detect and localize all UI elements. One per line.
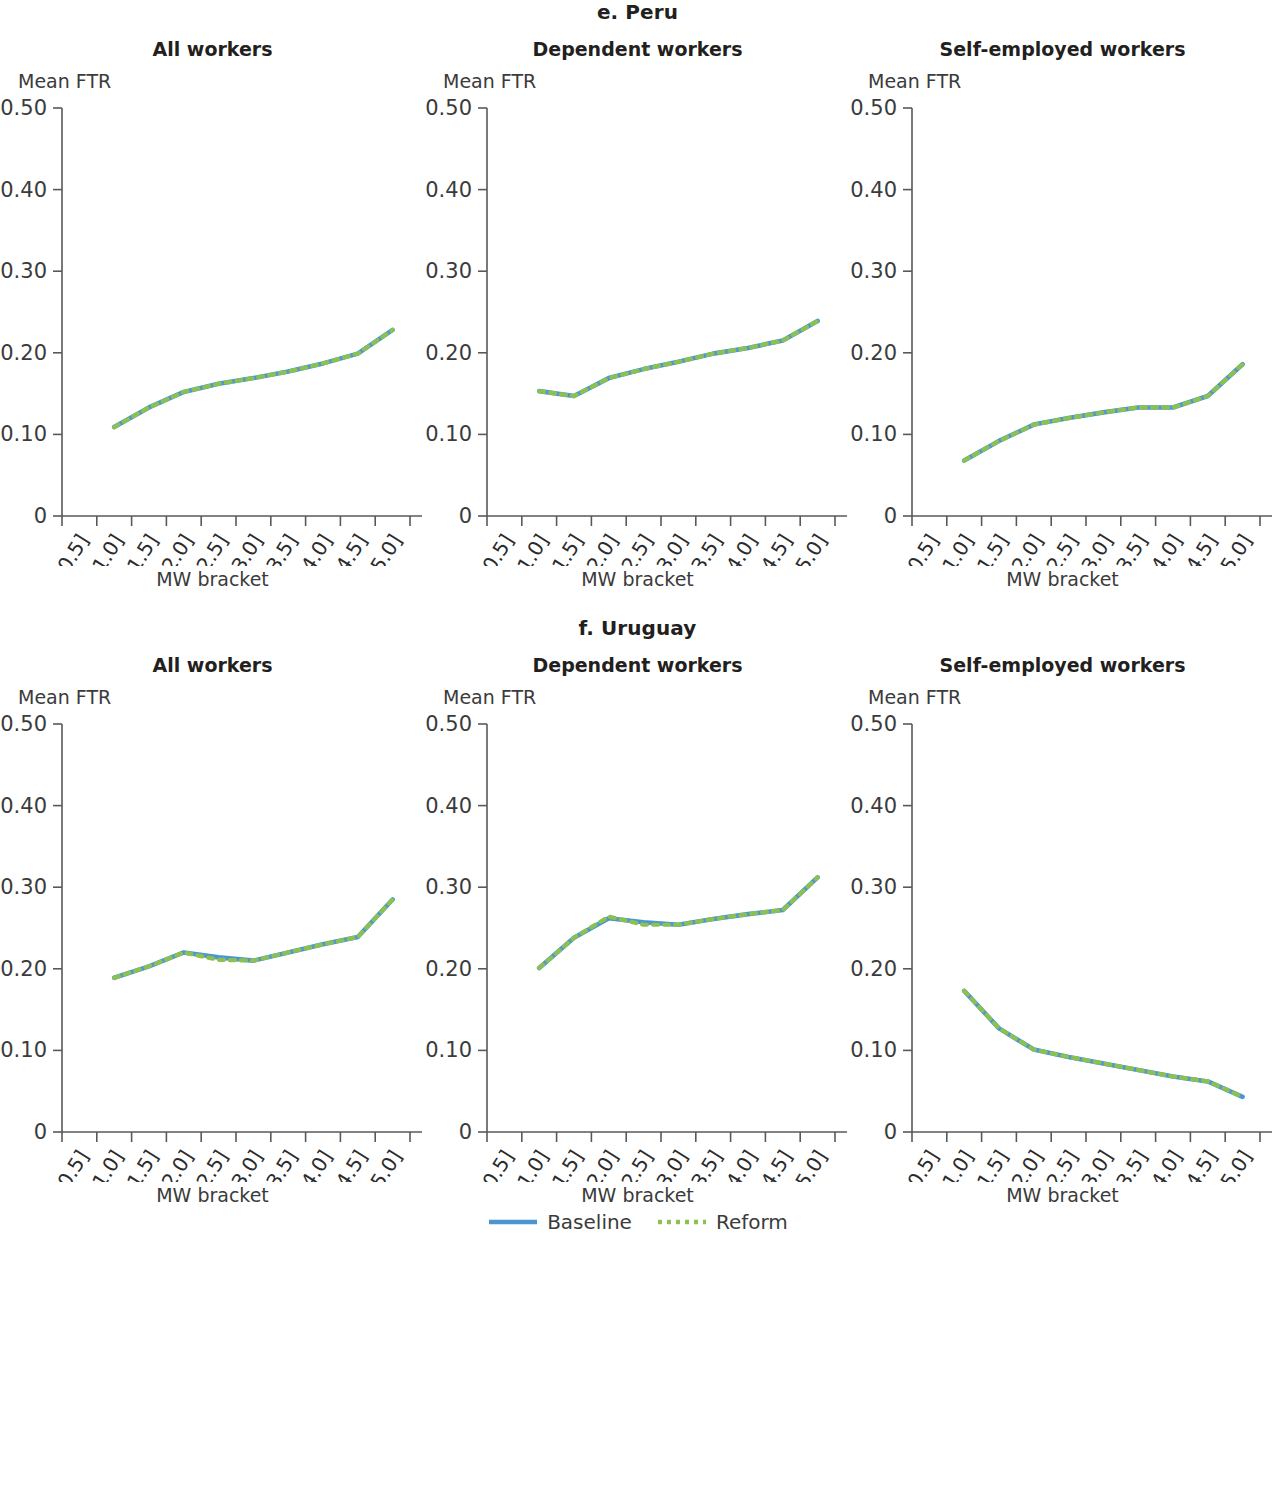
y-axis-tick-label: 0.40 [425, 178, 472, 202]
y-axis-tick-label: 0.30 [850, 875, 897, 899]
y-axis-tick-label: 0.10 [850, 422, 897, 446]
legend-label-baseline: Baseline [547, 1210, 632, 1234]
panel-title: Dependent workers [425, 38, 850, 60]
plot-area: 00.100.200.300.400.50[0, 0.5][0.5, 1.0][… [425, 96, 850, 566]
y-axis-tick-label: 0.20 [425, 341, 472, 365]
baseline-line-swatch [487, 1215, 539, 1229]
panel-uruguay-all-workers: All workers Mean FTR 00.100.200.300.400.… [0, 640, 425, 1206]
line-chart: 00.100.200.300.400.50[0, 0.5][0.5, 1.0][… [0, 96, 425, 566]
line-chart: 00.100.200.300.400.50[0, 0.5][0.5, 1.0][… [850, 712, 1275, 1182]
section-peru: e. Peru All workers Mean FTR 00.100.200.… [0, 0, 1275, 590]
reform-line [539, 321, 817, 396]
y-axis-tick-label: 0.10 [850, 1038, 897, 1062]
y-axis-tick-label: 0.40 [425, 794, 472, 818]
panel-title: All workers [0, 654, 425, 676]
panel-row-uruguay: All workers Mean FTR 00.100.200.300.400.… [0, 640, 1275, 1206]
y-axis-tick-label: 0 [884, 1120, 897, 1144]
x-axis-tick-label: [0, 0.5] [885, 530, 944, 566]
y-axis-label: Mean FTR [443, 686, 850, 708]
y-axis-tick-label: 0.50 [850, 96, 897, 120]
reform-line-swatch [656, 1215, 708, 1229]
y-axis-tick-label: 0.10 [0, 422, 47, 446]
y-axis-label: Mean FTR [868, 70, 1275, 92]
x-axis-tick-label: [0, 0.5] [885, 1146, 944, 1182]
plot-area: 00.100.200.300.400.50[0, 0.5][0.5, 1.0][… [0, 96, 425, 566]
panel-peru-all-workers: All workers Mean FTR 00.100.200.300.400.… [0, 24, 425, 590]
line-chart: 00.100.200.300.400.50[0, 0.5][0.5, 1.0][… [850, 96, 1275, 566]
y-axis-tick-label: 0 [459, 504, 472, 528]
panel-peru-self-employed-workers: Self-employed workers Mean FTR 00.100.20… [850, 24, 1275, 590]
y-axis-label: Mean FTR [443, 70, 850, 92]
y-axis-tick-label: 0.30 [425, 259, 472, 283]
y-axis-tick-label: 0.40 [850, 178, 897, 202]
y-axis-tick-label: 0.40 [0, 178, 47, 202]
baseline-line [539, 321, 817, 396]
x-axis-tick-label: [0, 0.5] [35, 1146, 94, 1182]
y-axis-tick-label: 0.20 [0, 957, 47, 981]
reform-line [964, 364, 1242, 460]
panel-title: Self-employed workers [850, 654, 1275, 676]
y-axis-tick-label: 0.30 [0, 259, 47, 283]
panel-title: Dependent workers [425, 654, 850, 676]
y-axis-tick-label: 0.50 [425, 96, 472, 120]
y-axis-tick-label: 0.10 [0, 1038, 47, 1062]
section-uruguay: f. Uruguay All workers Mean FTR 00.100.2… [0, 616, 1275, 1206]
x-axis-label: MW bracket [0, 568, 425, 590]
x-axis-label: MW bracket [425, 568, 850, 590]
y-axis-tick-label: 0.50 [425, 712, 472, 736]
y-axis-tick-label: 0.30 [425, 875, 472, 899]
y-axis-tick-label: 0.20 [850, 957, 897, 981]
y-axis-tick-label: 0.30 [850, 259, 897, 283]
y-axis-tick-label: 0.40 [850, 794, 897, 818]
plot-area: 00.100.200.300.400.50[0, 0.5][0.5, 1.0][… [0, 712, 425, 1182]
reform-line [539, 877, 817, 968]
y-axis-tick-label: 0 [34, 1120, 47, 1144]
y-axis-tick-label: 0.10 [425, 422, 472, 446]
y-axis-tick-label: 0.20 [850, 341, 897, 365]
y-axis-tick-label: 0.40 [0, 794, 47, 818]
section-title-peru: e. Peru [0, 0, 1275, 24]
panel-title: Self-employed workers [850, 38, 1275, 60]
y-axis-label: Mean FTR [18, 686, 425, 708]
panel-uruguay-dependent-workers: Dependent workers Mean FTR 00.100.200.30… [425, 640, 850, 1206]
chart-legend: Baseline Reform [0, 1210, 1275, 1234]
x-axis-label: MW bracket [425, 1184, 850, 1206]
y-axis-tick-label: 0.30 [0, 875, 47, 899]
baseline-line [964, 991, 1242, 1097]
panel-peru-dependent-workers: Dependent workers Mean FTR 00.100.200.30… [425, 24, 850, 590]
legend-item-baseline: Baseline [487, 1210, 632, 1234]
x-axis-label: MW bracket [850, 1184, 1275, 1206]
plot-area: 00.100.200.300.400.50[0, 0.5][0.5, 1.0][… [850, 96, 1275, 566]
line-chart: 00.100.200.300.400.50[0, 0.5][0.5, 1.0][… [425, 96, 850, 566]
line-chart: 00.100.200.300.400.50[0, 0.5][0.5, 1.0][… [425, 712, 850, 1182]
y-axis-tick-label: 0.10 [425, 1038, 472, 1062]
legend-label-reform: Reform [716, 1210, 788, 1234]
section-title-uruguay: f. Uruguay [0, 616, 1275, 640]
y-axis-tick-label: 0 [884, 504, 897, 528]
panel-row-peru: All workers Mean FTR 00.100.200.300.400.… [0, 24, 1275, 590]
y-axis-tick-label: 0.50 [850, 712, 897, 736]
y-axis-label: Mean FTR [868, 686, 1275, 708]
y-axis-tick-label: 0 [459, 1120, 472, 1144]
panel-title: All workers [0, 38, 425, 60]
x-axis-tick-label: [0, 0.5] [35, 530, 94, 566]
line-chart: 00.100.200.300.400.50[0, 0.5][0.5, 1.0][… [0, 712, 425, 1182]
y-axis-tick-label: 0.20 [425, 957, 472, 981]
x-axis-label: MW bracket [850, 568, 1275, 590]
legend-item-reform: Reform [656, 1210, 788, 1234]
plot-area: 00.100.200.300.400.50[0, 0.5][0.5, 1.0][… [425, 712, 850, 1182]
y-axis-tick-label: 0.20 [0, 341, 47, 365]
panel-uruguay-self-employed-workers: Self-employed workers Mean FTR 00.100.20… [850, 640, 1275, 1206]
x-axis-tick-label: [0, 0.5] [460, 1146, 519, 1182]
x-axis-label: MW bracket [0, 1184, 425, 1206]
y-axis-tick-label: 0.50 [0, 96, 47, 120]
y-axis-tick-label: 0 [34, 504, 47, 528]
y-axis-label: Mean FTR [18, 70, 425, 92]
y-axis-tick-label: 0.50 [0, 712, 47, 736]
x-axis-tick-label: [0, 0.5] [460, 530, 519, 566]
plot-area: 00.100.200.300.400.50[0, 0.5][0.5, 1.0][… [850, 712, 1275, 1182]
reform-line [114, 330, 392, 427]
